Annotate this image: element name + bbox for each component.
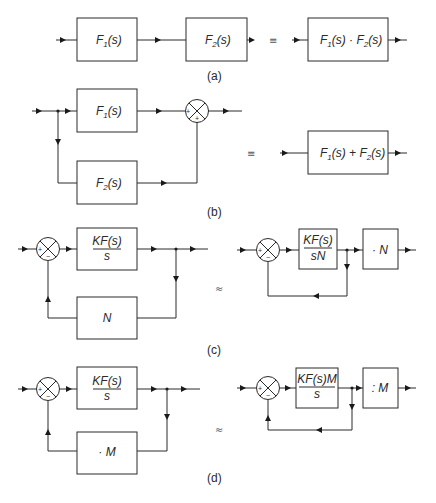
svg-text:−: − — [266, 254, 270, 261]
approx-symbol: ≈ — [215, 283, 223, 294]
arrow-icon — [36, 108, 42, 114]
forward-numerator: KF(s) — [303, 233, 332, 247]
arrow-icon — [223, 108, 229, 114]
equivalence-symbol: ≡ — [247, 148, 255, 159]
caption-c: (c) — [207, 343, 221, 357]
diagram-a: F1(s) F2(s) ≡ F1(s) · F2(s) (a) — [56, 18, 407, 83]
arrow-icon — [173, 276, 179, 282]
diagram-b: F1(s) + + F2(s) ≡ F1(s) + F2(s) (b) — [32, 89, 407, 219]
arrow-icon — [344, 264, 350, 270]
arrow-icon — [354, 247, 360, 253]
arrow-icon — [240, 385, 246, 391]
arrow-icon — [249, 37, 255, 43]
svg-text:+: + — [258, 385, 262, 392]
arrow-icon — [395, 150, 401, 156]
arrow-icon — [316, 427, 322, 433]
arrow-icon — [405, 247, 411, 253]
forward-denominator: s — [104, 389, 110, 403]
caption-b: (b) — [207, 205, 222, 219]
block-f2-label: F2(s) — [96, 176, 122, 192]
forward-denominator: s — [104, 249, 110, 263]
arrow-icon — [60, 37, 66, 43]
arrow-icon — [285, 385, 291, 391]
arrow-icon — [65, 108, 71, 114]
feedback-label: · M — [98, 445, 115, 459]
arrow-icon — [22, 386, 28, 392]
arrow-icon — [313, 293, 319, 299]
diagram-c-left: + − KF(s) s N — [18, 228, 208, 339]
block-f1-label: F1(s) — [96, 104, 122, 120]
arrow-icon — [356, 385, 362, 391]
arrow-icon — [294, 37, 300, 43]
arrow-icon — [45, 429, 51, 435]
summing-junction: + − — [257, 239, 280, 262]
feedback-label: N — [103, 311, 112, 325]
arrow-icon — [155, 37, 161, 43]
summing-junction: + − — [37, 378, 60, 401]
svg-text:−: − — [46, 253, 50, 260]
svg-text:+: + — [186, 108, 190, 115]
forward-denominator: s — [314, 387, 320, 401]
arrow-icon — [156, 108, 162, 114]
svg-text:+: + — [258, 247, 262, 254]
post-gain-label: · N — [372, 243, 388, 257]
arrow-icon — [282, 150, 288, 156]
approx-symbol: ≈ — [215, 424, 223, 435]
arrow-icon — [265, 415, 271, 421]
arrow-icon — [240, 247, 246, 253]
block-diagram-figure: F1(s) F2(s) ≡ F1(s) · F2(s) (a) F1(s) + … — [0, 0, 436, 503]
diagram-d-left: + − KF(s) s · M — [18, 367, 200, 474]
svg-text:−: − — [46, 393, 50, 400]
arrow-icon — [181, 386, 187, 392]
arrow-icon — [22, 246, 28, 252]
arrow-icon — [349, 404, 355, 410]
arrow-icon — [66, 246, 72, 252]
forward-numerator: KF(s)M — [297, 372, 336, 386]
summing-junction: + + — [186, 100, 209, 123]
arrow-icon — [286, 247, 292, 253]
arrow-icon — [151, 386, 157, 392]
svg-text:+: + — [38, 246, 42, 253]
forward-numerator: KF(s) — [92, 374, 121, 388]
block-f1-label: F1(s) — [96, 33, 122, 49]
arrow-icon — [151, 246, 157, 252]
equivalence-symbol: ≡ — [269, 35, 277, 46]
post-gain-label: : M — [372, 381, 389, 395]
caption-a: (a) — [207, 69, 222, 83]
diagram-d-right: + − KF(s)M s : M — [237, 368, 416, 433]
forward-numerator: KF(s) — [92, 234, 121, 248]
arrow-icon — [405, 385, 411, 391]
arrow-icon — [66, 386, 72, 392]
arrow-icon — [190, 246, 196, 252]
svg-text:+: + — [38, 386, 42, 393]
arrow-icon — [161, 180, 167, 186]
arrow-icon — [45, 296, 51, 302]
summing-junction: + − — [257, 377, 280, 400]
svg-text:−: − — [266, 392, 270, 399]
caption-d: (d) — [207, 471, 222, 485]
svg-text:+: + — [195, 115, 199, 122]
diagram-c-right: + − KF(s) sN · N — [237, 229, 416, 299]
summing-junction: + − — [37, 238, 60, 261]
arrow-icon — [55, 139, 61, 145]
forward-denominator: sN — [311, 249, 326, 263]
arrow-icon — [164, 414, 170, 420]
arrow-icon — [395, 37, 401, 43]
block-f2-label: F2(s) — [205, 33, 231, 49]
